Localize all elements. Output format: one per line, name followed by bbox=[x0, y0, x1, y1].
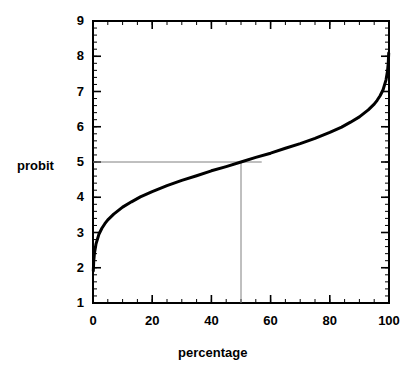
x-tick-label: 100 bbox=[369, 313, 409, 328]
y-tick-label: 1 bbox=[60, 295, 84, 310]
y-tick-label: 8 bbox=[60, 48, 84, 63]
probit-chart: probit percentage 020406080100 123456789 bbox=[0, 0, 415, 369]
y-tick-label: 5 bbox=[60, 154, 84, 169]
y-tick-label: 6 bbox=[60, 119, 84, 134]
x-tick-label: 0 bbox=[73, 313, 113, 328]
y-tick-label: 3 bbox=[60, 225, 84, 240]
y-tick-label: 9 bbox=[60, 13, 84, 28]
x-axis-title: percentage bbox=[178, 345, 247, 360]
y-tick-label: 4 bbox=[60, 189, 84, 204]
y-axis-title: probit bbox=[17, 158, 54, 173]
y-tick-label: 2 bbox=[60, 260, 84, 275]
x-tick-label: 20 bbox=[132, 313, 172, 328]
x-tick-label: 40 bbox=[191, 313, 231, 328]
y-tick-label: 7 bbox=[60, 84, 84, 99]
x-tick-label: 80 bbox=[310, 313, 350, 328]
x-tick-label: 60 bbox=[251, 313, 291, 328]
